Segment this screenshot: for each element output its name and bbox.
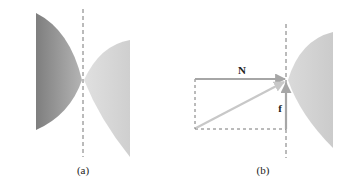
caption-b: (b): [257, 164, 270, 177]
friction-force-label: f: [278, 102, 282, 114]
figure: (a) N f (b): [0, 0, 353, 191]
light-body-shape: [84, 40, 130, 157]
resultant-force-arrow: [196, 82, 284, 128]
dark-body-shape: [36, 13, 82, 130]
normal-force-label: N: [238, 64, 246, 76]
caption-a: (a): [77, 164, 90, 177]
panel-a: (a): [36, 9, 130, 177]
panel-b: N f (b): [195, 24, 333, 177]
light-body-shape-b: [288, 32, 333, 148]
